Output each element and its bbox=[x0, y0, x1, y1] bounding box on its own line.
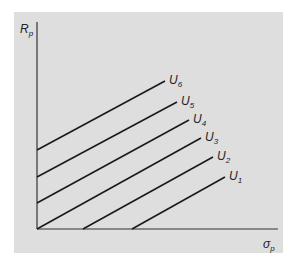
curve-label-u2: U2 bbox=[217, 149, 231, 165]
y-axis-label: Rp bbox=[20, 22, 34, 38]
curve-u3 bbox=[37, 138, 201, 229]
curve-u4 bbox=[37, 120, 189, 203]
indifference-curves: U1U2U3U4U5U6 bbox=[37, 73, 242, 229]
curve-label-u4: U4 bbox=[193, 112, 207, 128]
x-axis-label: σp bbox=[263, 237, 275, 253]
curve-u1 bbox=[132, 177, 225, 229]
curve-label-u6: U6 bbox=[169, 73, 183, 89]
curve-label-u1: U1 bbox=[229, 169, 242, 185]
indifference-curve-diagram: Rp σp U1U2U3U4U5U6 bbox=[0, 0, 296, 269]
curve-label-u5: U5 bbox=[181, 94, 195, 110]
curve-u6 bbox=[37, 81, 165, 150]
curve-label-u3: U3 bbox=[205, 130, 219, 146]
